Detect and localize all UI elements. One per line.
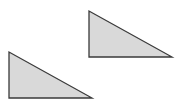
triangle-lower-left [9,52,92,98]
triangle-upper-right [89,11,172,57]
diagram-canvas [0,0,181,112]
